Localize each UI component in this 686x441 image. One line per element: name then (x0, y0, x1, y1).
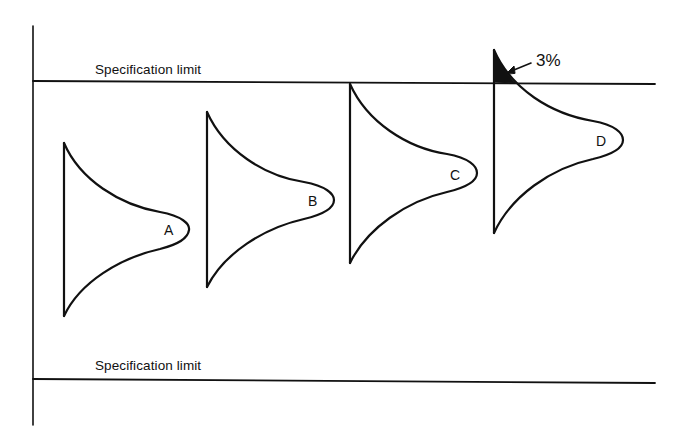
distribution-d-label: D (596, 133, 606, 149)
distribution-c-label: C (450, 167, 460, 183)
lower-spec-limit-line (33, 379, 655, 383)
arrow-icon (506, 63, 531, 74)
lower-spec-limit-label: Specification limit (95, 358, 201, 373)
upper-spec-limit-label: Specification limit (95, 62, 201, 77)
diagram-canvas: Specification limit Specification limit … (0, 0, 686, 441)
distribution-a-label: A (164, 222, 173, 238)
upper-spec-limit-line (33, 81, 655, 84)
percent-annotation: 3% (536, 51, 561, 71)
distribution-b-label: B (308, 193, 317, 209)
